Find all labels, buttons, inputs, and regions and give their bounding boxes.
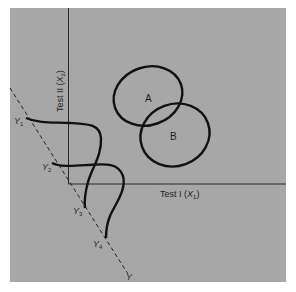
- discriminant-axis-label: Y: [126, 272, 133, 282]
- y2-label: Y2: [42, 162, 52, 173]
- discriminant-diagram: Test II (X2) Test I (X1) A B Y1 Y2 Y3 Y4…: [0, 0, 296, 292]
- group-a-label: A: [145, 93, 152, 104]
- group-b-distribution-curve: [52, 163, 124, 238]
- y-axis-label: Test II (X2): [55, 70, 66, 112]
- y1-label: Y1: [14, 116, 24, 127]
- group-b-label: B: [170, 131, 177, 142]
- y3-label: Y3: [73, 206, 83, 217]
- y4-label: Y4: [93, 239, 103, 250]
- x-axis-label: Test I (X1): [160, 189, 199, 200]
